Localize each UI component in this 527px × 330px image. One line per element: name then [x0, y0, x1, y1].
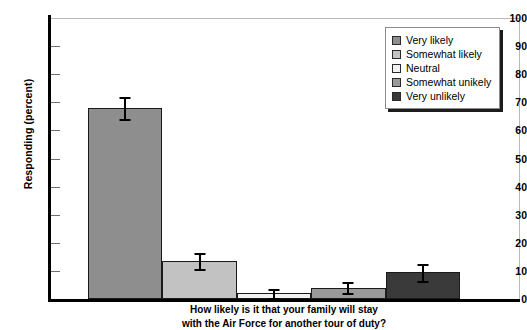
x-axis-spine [48, 299, 520, 302]
y-axis-tick-label: 50 [483, 153, 527, 165]
legend-item-label: Somewhat unikely [406, 75, 491, 89]
y-axis-tick-mark [51, 299, 60, 300]
y-axis-tick-mark [51, 74, 60, 75]
y-axis-tick-label: 30 [483, 209, 527, 221]
y-axis-tick-mark [51, 159, 60, 160]
x-axis-caption-line2: with the Air Force for another tour of d… [48, 317, 520, 330]
legend-item: Very unlikely [392, 89, 491, 103]
legend-item: Very likely [392, 33, 491, 47]
y-axis-tick-mark [51, 18, 60, 19]
x-axis-caption: How likely is it that your family will s… [48, 303, 520, 330]
y-axis-tick-mark [51, 130, 60, 131]
legend-swatch-icon [392, 78, 401, 87]
y-axis-tick-mark [51, 271, 60, 272]
legend-item: Somewhat likely [392, 47, 491, 61]
legend-swatch-icon [392, 92, 401, 101]
bar-chart-figure: Responding (percent) 1009080706050403020… [0, 0, 527, 330]
legend-item: Somewhat unikely [392, 75, 491, 89]
y-axis-title: Responding (percent) [22, 44, 34, 224]
legend-item-label: Neutral [406, 61, 440, 75]
y-axis-tick-label: 20 [483, 237, 527, 249]
legend-item-label: Very likely [406, 33, 453, 47]
legend-item: Neutral [392, 61, 491, 75]
y-axis-tick-mark [51, 46, 60, 47]
legend-swatch-icon [392, 36, 401, 45]
y-axis-tick-label: 40 [483, 181, 527, 193]
y-axis-tick-mark [51, 102, 60, 103]
legend-item-label: Somewhat likely [406, 47, 482, 61]
legend-swatch-icon [392, 64, 401, 73]
y-axis-tick-label: 10 [483, 265, 527, 277]
y-axis-tick-label: 60 [483, 124, 527, 136]
chart-legend: Very likelySomewhat likelyNeutralSomewha… [385, 27, 500, 109]
y-axis-tick-mark [51, 187, 60, 188]
x-axis-caption-line1: How likely is it that your family will s… [48, 303, 520, 317]
y-axis-tick-label: 100 [483, 12, 527, 24]
y-axis-tick-mark [51, 243, 60, 244]
legend-item-label: Very unlikely [406, 89, 465, 103]
y-axis-tick-mark [51, 215, 60, 216]
legend-swatch-icon [392, 50, 401, 59]
